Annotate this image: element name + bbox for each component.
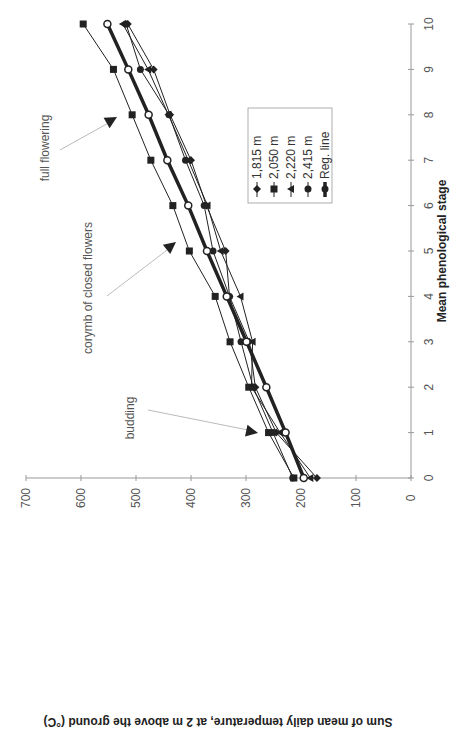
open-circle-marker [243, 338, 250, 345]
open-circle-marker [282, 429, 289, 436]
open-circle-marker [300, 475, 307, 482]
phenology-temperature-chart: 0123456789100100200300400500600700 buddi… [0, 0, 466, 730]
x-tick-label: 10 [422, 17, 436, 31]
x-tick-label: 7 [422, 157, 436, 164]
annotation-arrow-line [148, 410, 253, 431]
open-circle-marker [223, 293, 230, 300]
y-tick-label: 600 [74, 488, 88, 508]
annotation-label: budding [123, 397, 137, 440]
triangle-marker [237, 292, 244, 300]
square-marker [129, 111, 136, 118]
x-tick-label: 9 [422, 66, 436, 73]
arrowhead-icon [104, 117, 117, 128]
series-line [123, 24, 311, 478]
annotation-arrow-line [60, 121, 112, 150]
open-circle-marker [263, 384, 270, 391]
legend-label: 2,415 m [301, 136, 315, 179]
circle-marker [166, 111, 173, 118]
y-tick-label: 300 [239, 488, 253, 508]
series-lines [80, 20, 321, 482]
square-marker [212, 293, 219, 300]
triangle-marker [144, 65, 151, 73]
open-circle-marker [185, 202, 192, 209]
open-circle-marker [203, 248, 210, 255]
x-tick-label: 0 [422, 474, 436, 481]
square-marker [169, 202, 176, 209]
x-tick-label: 8 [422, 111, 436, 118]
x-tick-label: 2 [422, 384, 436, 391]
legend-label: 2,220 m [284, 136, 298, 179]
open-circle-marker [125, 66, 132, 73]
circle-marker [269, 429, 276, 436]
circle-marker [322, 186, 329, 193]
x-tick-label: 3 [422, 338, 436, 345]
x-tick-label: 5 [422, 247, 436, 254]
open-circle-marker [104, 21, 111, 28]
x-axis-title: Mean phenological stage [435, 179, 449, 322]
x-tick-label: 4 [422, 293, 436, 300]
square-marker [271, 186, 278, 193]
annotation-arrow-line [107, 247, 171, 296]
circle-marker [182, 157, 189, 164]
circle-marker [289, 475, 296, 482]
circle-marker [250, 384, 257, 391]
y-axis-title: Sum of mean daily temperature, at 2 m ab… [44, 715, 393, 729]
series-2-050-m [80, 21, 298, 482]
square-marker [227, 338, 234, 345]
square-marker [186, 248, 193, 255]
square-marker [110, 66, 117, 73]
circle-marker [123, 21, 130, 28]
x-tick-label: 1 [422, 429, 436, 436]
y-tick-label: 0 [404, 494, 418, 501]
circle-marker [201, 202, 208, 209]
x-tick-label: 6 [422, 202, 436, 209]
open-circle-marker [145, 111, 152, 118]
legend-label: 2,050 m [267, 136, 281, 179]
annotation-label: corymb of closed flowers [81, 222, 95, 354]
square-marker [80, 21, 87, 28]
y-tick-label: 700 [19, 488, 33, 508]
legend-label: 1,815 m [250, 136, 264, 179]
circle-marker [305, 186, 312, 193]
legend-label: Reg. line [318, 131, 332, 179]
y-tick-label: 400 [184, 488, 198, 508]
square-marker [147, 157, 154, 164]
annotation-label: full flowering [38, 115, 52, 182]
circle-marker [137, 66, 144, 73]
legend: 1,815 m2,050 m2,220 m2,415 mReg. line [248, 108, 332, 203]
y-tick-label: 500 [129, 488, 143, 508]
y-tick-label: 100 [349, 488, 363, 508]
y-tick-label: 200 [294, 488, 308, 508]
open-circle-marker [164, 157, 171, 164]
arrowhead-icon [245, 425, 258, 437]
